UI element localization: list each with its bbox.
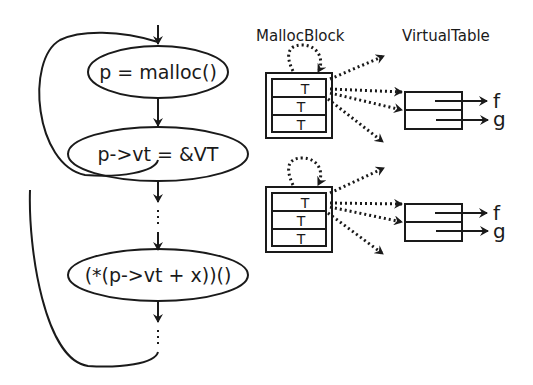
malloc-block-2: T T T f g (266, 158, 506, 254)
self-loop-1 (289, 45, 321, 72)
malloc-block-1: T T T f g (266, 45, 506, 142)
cell-1-0: T (300, 81, 310, 97)
cell-2-1: T (296, 213, 306, 229)
node-vcall-label: (*(p->vt + x))() (85, 264, 232, 286)
node-assign-vt-label: p->vt = &VT (98, 143, 219, 165)
header-malloc-block: MallocBlock (256, 27, 345, 45)
diagram-canvas: p = malloc() p->vt = &VT (*(p->vt + x))(… (0, 0, 533, 385)
flowchart: p = malloc() p->vt = &VT (*(p->vt + x))(… (30, 25, 248, 366)
cell-2-0: T (300, 195, 310, 211)
vtable-1-entry-g: g (493, 107, 506, 131)
cell-2-2: T (296, 231, 306, 247)
vtable-2-entry-g: g (493, 219, 506, 243)
self-loop-2 (289, 158, 321, 185)
node-malloc-label: p = malloc() (99, 61, 217, 83)
cell-1-1: T (296, 99, 306, 115)
cell-1-2: T (296, 117, 306, 133)
header-virtual-table: VirtualTable (402, 27, 490, 45)
